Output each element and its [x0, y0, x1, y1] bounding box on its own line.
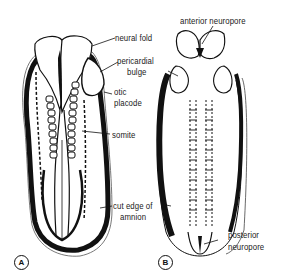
- label-posterior-neuropore-line2: neuropore: [228, 241, 264, 252]
- label-cut-edge-line1: cut edge of: [113, 200, 152, 211]
- panel-badge-b: B: [158, 255, 173, 270]
- embryo-b-drawing: [158, 31, 247, 256]
- embryo-a-drawing: [23, 36, 112, 256]
- label-pericardial-line2: bulge: [127, 66, 146, 77]
- label-neural-fold: neural fold: [115, 32, 152, 43]
- panel-badge-a: A: [14, 255, 29, 270]
- label-somite: somite: [112, 129, 135, 140]
- label-posterior-neuropore-line1: posterior: [228, 229, 259, 240]
- label-otic-line1: otic: [114, 86, 126, 97]
- label-anterior-neuropore: anterior neuropore: [180, 15, 246, 26]
- label-pericardial-line1: pericardial: [117, 55, 154, 66]
- label-cut-edge-line2: amnion: [120, 211, 146, 222]
- label-otic-line2: placode: [114, 97, 142, 108]
